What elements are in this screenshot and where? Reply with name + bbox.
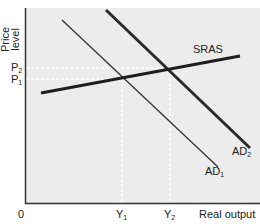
sras-label: SRAS (193, 44, 223, 55)
x-axis-label: Real output (199, 209, 255, 220)
p1-label: P1 (11, 74, 22, 86)
y-axis-label: Price level (0, 27, 20, 52)
diagram-canvas (0, 0, 260, 224)
plot-area (26, 8, 260, 203)
ad2-label: AD2 (232, 146, 251, 158)
origin-label: 0 (18, 209, 24, 220)
ad1-label: AD1 (205, 166, 224, 178)
y-axis-label-line2: level (10, 27, 20, 52)
y2-label: Y2 (164, 209, 175, 221)
y1-label: Y1 (116, 209, 127, 221)
ad-as-diagram: Price level P2 P1 SRAS AD1 AD2 0 Y1 Y2 R… (0, 0, 260, 224)
